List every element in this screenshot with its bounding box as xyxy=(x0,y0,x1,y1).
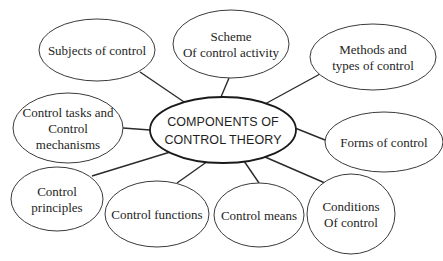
node-label-scheme: Scheme xyxy=(210,29,251,44)
mind-map-diagram: Subjects of controlSchemeOf control acti… xyxy=(0,0,443,261)
connector-means xyxy=(244,161,259,183)
central-ellipse xyxy=(150,97,296,163)
node-label-tasks: mechanisms xyxy=(36,137,100,152)
node-label-conditions: Of control xyxy=(324,215,378,230)
node-forms: Forms of control xyxy=(325,112,443,172)
node-label-tasks: Control tasks and xyxy=(23,105,114,120)
node-label-conditions: Conditions xyxy=(322,199,379,214)
connector-conditions xyxy=(265,157,325,183)
node-label-functions: Control functions xyxy=(111,207,202,222)
node-label-forms: Forms of control xyxy=(340,135,428,150)
central-label-line-1: COMPONENTS OF xyxy=(167,115,279,129)
node-label-scheme: Of control activity xyxy=(183,45,280,60)
connector-scheme xyxy=(221,78,229,97)
node-label-methods: Methods and xyxy=(339,42,407,57)
connector-forms xyxy=(295,128,325,140)
node-label-tasks: Control xyxy=(48,121,88,136)
node-methods: Methods andtypes of control xyxy=(310,24,436,90)
node-functions: Control functions xyxy=(105,181,209,247)
node-subjects: Subjects of control xyxy=(39,19,155,81)
node-scheme: SchemeOf control activity xyxy=(173,10,289,78)
connector-functions xyxy=(177,161,208,183)
node-label-means: Control means xyxy=(221,208,297,223)
central-node: COMPONENTS OF CONTROL THEORY xyxy=(150,97,296,163)
connector-tasks xyxy=(123,128,150,130)
central-label-line-2: CONTROL THEORY xyxy=(164,133,282,147)
node-label-methods: types of control xyxy=(332,58,414,73)
node-label-principles: Control xyxy=(37,184,77,199)
connector-methods xyxy=(265,74,320,104)
connector-subjects xyxy=(140,72,190,106)
node-label-subjects: Subjects of control xyxy=(48,43,147,58)
node-means: Control means xyxy=(214,183,304,247)
node-tasks: Control tasks andControlmechanisms xyxy=(13,93,123,163)
node-label-principles: principles xyxy=(31,200,82,215)
node-conditions: ConditionsOf control xyxy=(307,174,395,254)
node-principles: Controlprinciples xyxy=(11,167,103,231)
